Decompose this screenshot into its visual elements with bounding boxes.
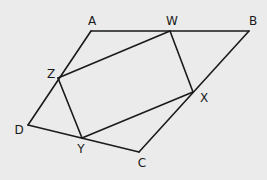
vertex-label-x: X [200,91,208,105]
edge-wx [170,31,193,92]
vertex-label-d: D [14,123,23,137]
vertex-label-z: Z [47,67,55,81]
edge-bc [139,31,249,152]
vertex-label-a: A [88,14,97,28]
vertex-label-w: W [166,14,178,28]
edge-yz [58,78,82,138]
vertex-label-c: C [138,156,146,170]
vertex-label-b: B [249,14,257,28]
vertex-label-y: Y [76,142,85,156]
edge-xy [82,92,193,138]
quadrilateral-diagram: A W B Z X D Y C [0,0,267,180]
edges-group [28,31,249,152]
